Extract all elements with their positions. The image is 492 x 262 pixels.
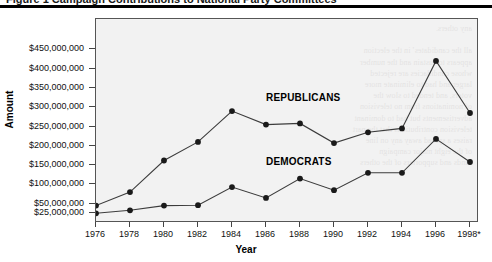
data-point-marker xyxy=(365,170,371,176)
data-point-marker xyxy=(297,121,303,127)
data-point-marker xyxy=(399,126,405,132)
data-point-marker xyxy=(127,207,133,213)
series-label-republicans: REPUBLICANS xyxy=(266,92,340,103)
data-point-marker xyxy=(161,158,167,164)
y-axis-tick-mark xyxy=(89,203,95,204)
x-axis-title: Year xyxy=(0,244,492,255)
x-axis-tick-mark xyxy=(265,222,266,227)
x-axis-tick-label: 1984 xyxy=(221,229,241,239)
x-axis-tick-label: 1982 xyxy=(187,229,207,239)
data-point-marker xyxy=(229,108,235,114)
series-lines xyxy=(96,19,478,222)
x-axis-tick-label: 1996 xyxy=(425,229,445,239)
y-axis-tick-label: $50,000,000 xyxy=(34,198,84,208)
x-axis-tick-mark xyxy=(163,222,164,227)
x-axis-tick-mark xyxy=(401,222,402,227)
y-axis-tick-label: $300,000,000 xyxy=(29,101,84,111)
y-axis-title: Amount xyxy=(4,80,15,140)
data-point-marker xyxy=(161,203,167,209)
series-line-democrats xyxy=(96,139,470,213)
y-axis-tick-label: $25,000,000 xyxy=(34,207,84,217)
data-point-marker xyxy=(399,170,405,176)
y-axis-tick-label: $400,000,000 xyxy=(29,63,84,73)
data-point-marker xyxy=(195,202,201,208)
plot-area: any others. all the candidates’ in the e… xyxy=(95,18,478,222)
data-point-marker xyxy=(127,189,133,195)
y-axis-tick-mark xyxy=(89,106,95,107)
y-axis-tick-mark xyxy=(89,126,95,127)
x-axis-tick-mark xyxy=(95,222,96,227)
y-axis-tick-label: $100,000,000 xyxy=(29,178,84,188)
x-axis-tick-mark xyxy=(299,222,300,227)
series-line-republicans xyxy=(96,61,470,206)
data-point-marker xyxy=(263,195,269,201)
data-point-marker xyxy=(467,159,473,165)
data-point-marker xyxy=(297,176,303,182)
x-axis-tick-label: 1998* xyxy=(457,229,481,239)
y-axis-tick-mark xyxy=(89,68,95,69)
y-axis-tick-label: $250,000,000 xyxy=(29,121,84,131)
y-axis-tick-mark xyxy=(89,183,95,184)
x-axis-tick-mark xyxy=(129,222,130,227)
x-axis-tick-label: 1988 xyxy=(289,229,309,239)
y-axis-tick-mark xyxy=(89,164,95,165)
data-point-marker xyxy=(263,122,269,128)
data-point-marker xyxy=(96,203,99,209)
data-point-marker xyxy=(229,184,235,190)
x-axis-tick-label: 1976 xyxy=(85,229,105,239)
x-axis-tick-mark xyxy=(333,222,334,227)
x-axis-tick-label: 1992 xyxy=(357,229,377,239)
y-axis-tick-label: $450,000,000 xyxy=(29,43,84,53)
series-label-democrats: DEMOCRATS xyxy=(266,156,332,167)
x-axis-tick-mark xyxy=(197,222,198,227)
x-axis-tick-label: 1994 xyxy=(391,229,411,239)
x-axis-tick-mark xyxy=(367,222,368,227)
chart-figure: Figure 1 Campaign Contributions to Natio… xyxy=(0,0,492,262)
x-axis-tick-label: 1978 xyxy=(119,229,139,239)
data-point-marker xyxy=(331,187,337,193)
y-axis-tick-mark xyxy=(89,48,95,49)
y-axis-tick-label: $350,000,000 xyxy=(29,82,84,92)
data-point-marker xyxy=(331,140,337,146)
y-axis-tick-label: $200,000,000 xyxy=(29,140,84,150)
x-axis-tick-mark xyxy=(231,222,232,227)
data-point-marker xyxy=(433,58,439,64)
x-axis-tick-mark xyxy=(469,222,470,227)
data-point-marker xyxy=(433,136,439,142)
y-axis-tick-label: $150,000,000 xyxy=(29,159,84,169)
x-axis-tick-label: 1980 xyxy=(153,229,173,239)
data-point-marker xyxy=(96,210,99,216)
data-point-marker xyxy=(365,129,371,135)
x-axis-tick-label: 1986 xyxy=(255,229,275,239)
data-point-marker xyxy=(195,139,201,145)
y-axis-tick-mark xyxy=(89,212,95,213)
x-axis-tick-mark xyxy=(435,222,436,227)
y-axis-tick-mark xyxy=(89,145,95,146)
y-axis-tick-mark xyxy=(89,87,95,88)
data-point-marker xyxy=(467,110,473,116)
x-axis-tick-label: 1990 xyxy=(323,229,343,239)
